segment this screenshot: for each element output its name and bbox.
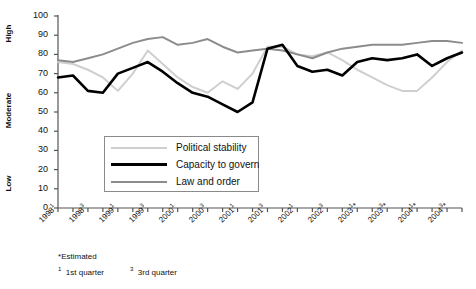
legend-line-swatch	[111, 163, 167, 166]
y-axis-tick-label: 10	[24, 183, 48, 193]
legend-label: Law and order	[176, 177, 240, 187]
legend-line-swatch	[111, 181, 167, 183]
legend-item: Law and order	[105, 173, 258, 190]
y-axis-band-label: Low	[4, 161, 13, 205]
y-axis-tick-label: 90	[24, 29, 48, 39]
legend-line-swatch	[111, 147, 167, 149]
y-axis-tick-label: 30	[24, 144, 48, 154]
footnote-estimated: *Estimated	[58, 252, 97, 261]
y-axis-tick-label: 20	[24, 164, 48, 174]
legend-item: Political stability	[105, 139, 258, 156]
footnote-text: 1st quarter	[61, 268, 104, 277]
footnote-text: 3rd quarter	[133, 268, 177, 277]
legend-item: Capacity to govern	[105, 156, 258, 173]
line-chart: 0102030405060708090100HighModerateLow199…	[0, 0, 476, 289]
y-axis-tick-label: 60	[24, 87, 48, 97]
chart-legend: Political stabilityCapacity to governLaw…	[104, 136, 259, 192]
footnote-text: Estimated	[61, 252, 97, 261]
y-axis-tick-label: 70	[24, 68, 48, 78]
y-axis-tick-label: 40	[24, 125, 48, 135]
footnote-quarters: 1 1st quarter3 3rd quarter	[58, 266, 177, 277]
y-axis-band-label: Moderate	[4, 89, 13, 133]
legend-label: Capacity to govern	[176, 160, 259, 170]
y-axis-tick-label: 50	[24, 106, 48, 116]
y-axis-band-label: High	[4, 12, 13, 56]
legend-label: Political stability	[176, 143, 247, 153]
y-axis-tick-label: 80	[24, 48, 48, 58]
y-axis-tick-label: 100	[24, 10, 48, 20]
